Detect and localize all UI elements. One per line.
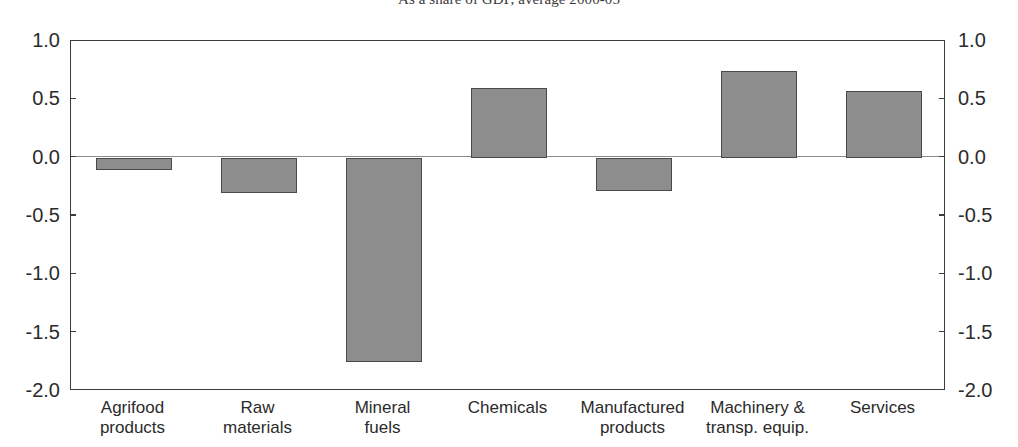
y-tick-label-left: -1.0 [26,263,60,283]
y-tick-label-left: 0.5 [32,88,60,108]
y-tick-label-right: 0.5 [958,88,986,108]
bar [721,71,797,157]
x-tick-label-line: Machinery & [710,398,804,417]
bar [221,158,297,193]
y-tick-label-left: -1.5 [26,322,60,342]
plot-area [70,40,945,390]
y-tick-mark-left [70,214,76,216]
y-tick-label-right: 0.0 [958,147,986,167]
y-tick-label-left: 0.0 [32,147,60,167]
chart-title: As a share of GDP, average 2000-05 [0,0,1018,8]
x-tick-label-line: Services [850,398,915,417]
y-tick-label-left: 1.0 [32,30,60,50]
y-tick-mark-left [70,273,76,275]
x-tick-label-line: materials [223,418,292,437]
y-tick-label-left: -2.0 [26,380,60,400]
x-tick-label-line: fuels [365,418,401,437]
y-tick-mark-left [70,98,76,100]
y-tick-label-right: 1.0 [958,30,986,50]
x-tick-label-line: products [100,418,165,437]
x-tick-label-line: Agrifood [101,398,164,417]
chart-figure: As a share of GDP, average 2000-05 1.00.… [0,0,1018,447]
x-tick-label-line: Raw [240,398,274,417]
x-tick-label-line: Chemicals [468,398,547,417]
y-tick-mark-right [939,273,945,275]
y-tick-mark-left [70,156,76,158]
y-tick-mark-right [939,214,945,216]
y-tick-label-right: -0.5 [958,205,992,225]
x-tick-label-line: transp. equip. [706,418,809,437]
y-tick-mark-right [939,331,945,333]
x-tick-label-line: products [600,418,665,437]
bar [96,158,172,171]
y-tick-label-right: -1.0 [958,263,992,283]
y-tick-label-right: -2.0 [958,380,992,400]
y-tick-mark-left [70,331,76,333]
x-tick-label: Services [793,398,973,418]
bar [346,158,422,362]
y-tick-label-left: -0.5 [26,205,60,225]
x-tick-label-line: Mineral [355,398,411,417]
bar [596,158,672,192]
bar [846,91,922,158]
y-tick-mark-right [939,156,945,158]
y-tick-mark-right [939,98,945,100]
y-tick-label-right: -1.5 [958,322,992,342]
bar [471,88,547,158]
